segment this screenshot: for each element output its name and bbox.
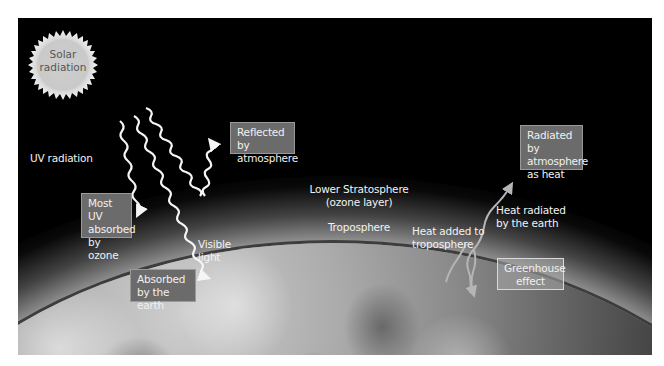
reflected-box: Reflected by atmosphere — [230, 122, 295, 154]
reflected-arrow — [146, 108, 214, 196]
troposphere-label: Troposphere — [304, 221, 414, 234]
heat-radiated-label: Heat radiated by the earth — [496, 204, 566, 230]
most-uv-box: Most UV absorbed by ozone — [81, 193, 132, 238]
lower-stratosphere-label: Lower Stratosphere (ozone layer) — [304, 183, 414, 209]
diagram-panel: Solar radiation UV radiation Visible lig… — [18, 18, 652, 355]
greenhouse-box: Greenhouse effect — [497, 258, 564, 290]
absorbed-earth-box: Absorbed by the earth — [130, 269, 196, 302]
visible-light-label: Visible light — [198, 238, 231, 264]
heat-added-label: Heat added to troposphere — [412, 225, 484, 251]
greenhouse-arrow — [472, 250, 476, 292]
visible-light-arrow — [134, 116, 205, 277]
uv-radiation-label: UV radiation — [30, 152, 93, 165]
radiated-heat-box: Radiated by atmosphere as heat — [520, 125, 583, 170]
